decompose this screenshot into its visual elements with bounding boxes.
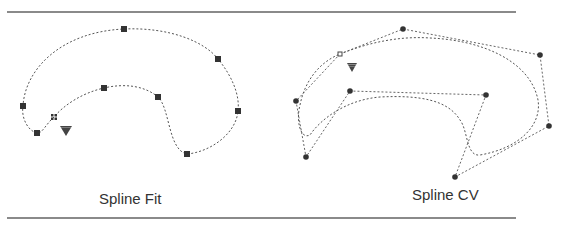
fit-point-marker[interactable] [34, 130, 40, 136]
spline-fit-caption: Spline Fit [99, 190, 162, 207]
fit-point-marker[interactable] [235, 108, 241, 114]
spline-cv-curve [298, 38, 538, 155]
spline-cv-caption: Spline CV [412, 186, 479, 203]
control-polygon [296, 29, 549, 177]
control-vertex[interactable] [400, 26, 406, 32]
start-vertex-square-icon[interactable] [338, 52, 342, 56]
control-vertex[interactable] [537, 52, 543, 58]
control-vertex-markers [293, 26, 552, 180]
spline-cv-panel [293, 26, 552, 180]
control-vertex[interactable] [452, 174, 458, 180]
fit-point-markers [20, 26, 241, 157]
control-vertex[interactable] [347, 88, 353, 94]
control-vertex[interactable] [483, 92, 489, 98]
fit-point-marker[interactable] [215, 56, 221, 62]
control-vertex[interactable] [303, 154, 309, 160]
spline-fit-panel [20, 26, 241, 157]
spline-fit-curve [23, 29, 239, 154]
fit-point-marker[interactable] [20, 103, 26, 109]
spline-diagram [0, 0, 570, 225]
fit-point-marker[interactable] [101, 85, 107, 91]
control-vertex[interactable] [293, 98, 299, 104]
fit-point-marker[interactable] [121, 26, 127, 32]
fit-point-marker[interactable] [155, 94, 161, 100]
fit-point-marker[interactable] [184, 151, 190, 157]
control-vertex[interactable] [546, 123, 552, 129]
